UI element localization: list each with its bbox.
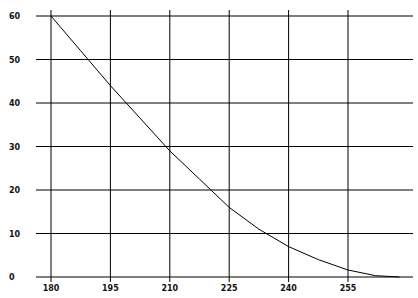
x-tick-label: 195 xyxy=(102,284,119,293)
x-tick-label: 210 xyxy=(161,284,178,293)
grid-lines xyxy=(36,10,413,282)
y-tick-label: 60 xyxy=(9,12,21,21)
y-tick-label: 40 xyxy=(9,99,21,108)
y-tick-label: 10 xyxy=(9,230,21,239)
y-tick-label: 0 xyxy=(9,273,15,282)
y-axis-ticks: 0102030405060 xyxy=(9,12,21,282)
x-tick-label: 180 xyxy=(43,284,60,293)
x-tick-label: 255 xyxy=(340,284,357,293)
y-tick-label: 50 xyxy=(9,56,21,65)
y-tick-label: 30 xyxy=(9,143,21,152)
y-tick-label: 20 xyxy=(9,186,21,195)
x-tick-label: 240 xyxy=(280,284,297,293)
line-chart: 0102030405060 180195210225240255 xyxy=(0,0,418,298)
x-tick-label: 225 xyxy=(221,284,238,293)
x-axis-ticks: 180195210225240255 xyxy=(43,284,357,293)
